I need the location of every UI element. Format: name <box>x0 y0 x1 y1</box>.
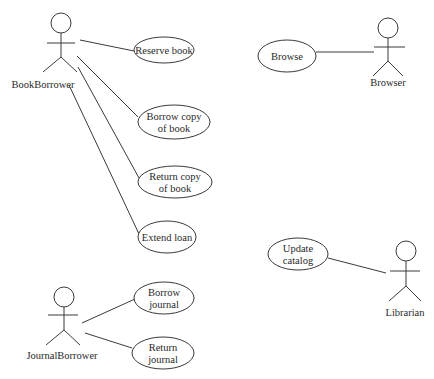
stick-figure-icon <box>51 13 71 33</box>
actor-right-leg <box>406 286 421 301</box>
actor-librarian[interactable]: Librarian <box>385 241 425 318</box>
use-case-browse[interactable]: Browse <box>258 40 316 72</box>
use-case-label: journal <box>147 354 178 365</box>
use-case-reserve-book[interactable]: Reserve book <box>134 37 194 63</box>
actor-left-leg <box>43 57 61 72</box>
use-case-label: journal <box>148 299 179 310</box>
actor-right-leg <box>388 61 403 76</box>
actor-left-leg <box>373 61 388 76</box>
use-case-label: Return <box>149 342 178 353</box>
use-case-extend-loan[interactable]: Extend loan <box>138 221 196 253</box>
stick-figure-icon <box>396 241 416 261</box>
actor-label: BookBorrower <box>12 79 75 90</box>
association-librarian-update-catalog <box>328 258 386 273</box>
actor-label: Browser <box>370 77 406 88</box>
stick-figure-icon <box>378 18 398 38</box>
associations <box>69 40 386 348</box>
association-journal-borrower-return-journal <box>85 333 132 348</box>
association-book-borrower-reserve-book <box>80 40 134 51</box>
use-case-diagram: Reserve bookBorrow copyof bookReturn cop… <box>0 0 434 379</box>
actor-book-borrower[interactable]: BookBorrower <box>12 13 78 90</box>
use-cases: Reserve bookBorrow copyof bookReturn cop… <box>132 37 328 369</box>
use-case-borrow-copy[interactable]: Borrow copyof book <box>138 105 210 139</box>
actor-right-leg <box>61 57 77 72</box>
use-case-label: Reserve book <box>135 45 193 56</box>
actors: BookBorrowerBrowserLibrarianJournalBorro… <box>12 13 426 361</box>
actor-label: JournalBorrower <box>26 350 98 361</box>
use-case-label: Borrow copy <box>146 111 202 122</box>
actor-right-leg <box>64 330 80 345</box>
use-case-label: Return copy <box>149 171 201 182</box>
stick-figure-icon <box>54 287 74 307</box>
use-case-label: Extend loan <box>142 232 193 243</box>
actor-journal-borrower[interactable]: JournalBorrower <box>26 287 98 361</box>
actor-browser[interactable]: Browser <box>370 18 406 88</box>
use-case-label: catalog <box>283 255 314 266</box>
use-case-return-journal[interactable]: Returnjournal <box>132 337 194 369</box>
association-journal-borrower-borrow-journal <box>82 299 135 323</box>
use-case-update-catalog[interactable]: Updatecatalog <box>268 238 328 270</box>
use-case-label: Update <box>283 243 314 254</box>
use-case-return-copy[interactable]: Return copyof book <box>138 166 212 198</box>
use-case-label: of book <box>158 123 191 134</box>
use-case-label: Browse <box>271 51 303 62</box>
association-book-borrower-borrow-copy <box>77 56 138 117</box>
use-case-borrow-journal[interactable]: Borrowjournal <box>134 282 194 314</box>
actor-label: Librarian <box>385 307 425 318</box>
use-case-label: Borrow <box>148 287 180 298</box>
actor-left-leg <box>389 286 406 301</box>
use-case-label: of book <box>159 183 192 194</box>
actor-left-leg <box>46 330 64 345</box>
